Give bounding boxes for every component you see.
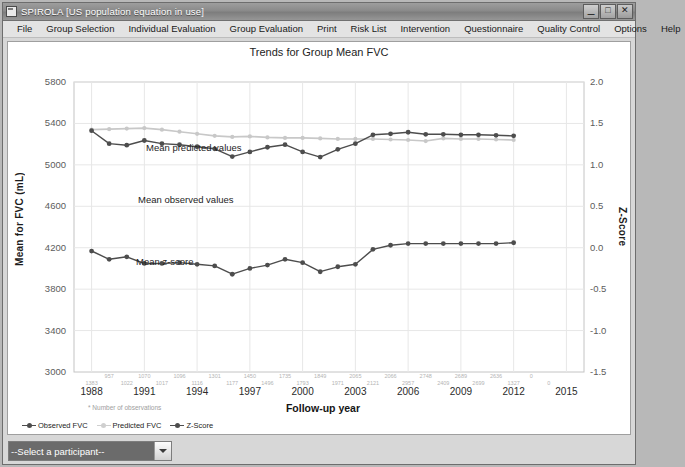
legend-label-observed-fvc: Observed FVC — [38, 421, 88, 430]
x-tick-1994: 1994 — [177, 386, 217, 397]
x-tick-2015: 2015 — [546, 386, 586, 397]
menu-item-questionnaire[interactable]: Questionnaire — [457, 21, 530, 37]
minimize-button[interactable]: _ — [583, 4, 599, 19]
y-tick-right-0.5: 0.5 — [590, 200, 620, 211]
observation-count-top-3: 1301 — [202, 373, 228, 379]
y-tick-right-2.0: 2.0 — [590, 76, 620, 87]
observation-count-bottom-13: 0 — [536, 380, 562, 386]
y-tick-left-5400: 5400 — [32, 117, 66, 128]
legend-marker-predicted-fvc — [97, 423, 111, 429]
plot-area — [8, 42, 631, 427]
observation-count-top-7: 2065 — [342, 373, 368, 379]
observation-count-bottom-11: 2699 — [465, 380, 491, 386]
y-axis-label-right: Z-Score — [617, 207, 628, 246]
bottom-bar: --Select a participant-- — [7, 435, 631, 464]
close-button[interactable]: ✕ — [617, 4, 633, 19]
y-tick-right--0.5: -0.5 — [590, 283, 620, 294]
application-window: SPIROLA [US population equation in use] … — [2, 2, 636, 465]
y-tick-right-0.0: 0.0 — [590, 242, 620, 253]
observation-count-top-1: 1070 — [131, 373, 157, 379]
y-tick-right--1.0: -1.0 — [590, 325, 620, 336]
observation-count-bottom-8: 2121 — [360, 380, 386, 386]
menu-item-options[interactable]: Options — [607, 21, 654, 37]
observation-count-top-4: 1450 — [237, 373, 263, 379]
observation-count-bottom-12: 1327 — [501, 380, 527, 386]
menu-item-group-selection[interactable]: Group Selection — [39, 21, 121, 37]
y-tick-left-3400: 3400 — [32, 325, 66, 336]
chart-panel: Trends for Group Mean FVC Mean for FVC (… — [7, 41, 631, 435]
chart-legend: Observed FVC Predicted FVC Z-Score — [22, 421, 213, 430]
title-bar: SPIROLA [US population equation in use] … — [3, 3, 635, 21]
y-tick-left-3800: 3800 — [32, 283, 66, 294]
participant-select[interactable]: --Select a participant-- — [8, 441, 172, 461]
y-tick-right--1.5: -1.5 — [590, 366, 620, 377]
series-annotation-predicted-fvc: Mean predicted values — [146, 142, 242, 153]
y-tick-right-1.0: 1.0 — [590, 159, 620, 170]
y-tick-left-3000: 3000 — [32, 366, 66, 377]
y-tick-left-5800: 5800 — [32, 76, 66, 87]
maximize-button[interactable]: □ — [600, 4, 616, 19]
legend-label-predicted-fvc: Predicted FVC — [113, 421, 162, 430]
close-icon: ✕ — [618, 5, 632, 16]
menu-item-group-evaluation[interactable]: Group Evaluation — [223, 21, 310, 37]
y-tick-left-5000: 5000 — [32, 159, 66, 170]
menu-item-help[interactable]: Help — [654, 21, 685, 37]
maximize-icon: □ — [601, 5, 615, 16]
observation-count-bottom-5: 1496 — [254, 380, 280, 386]
x-tick-2000: 2000 — [283, 386, 323, 397]
window-controls: _ □ ✕ — [583, 4, 633, 19]
observation-count-bottom-9: 2957 — [395, 380, 421, 386]
observation-count-top-6: 1849 — [307, 373, 333, 379]
x-tick-1988: 1988 — [72, 386, 112, 397]
observation-count-bottom-3: 1116 — [184, 380, 210, 386]
observation-count-bottom-10: 2409 — [430, 380, 456, 386]
x-tick-2003: 2003 — [335, 386, 375, 397]
legend-marker-observed-fvc — [22, 423, 36, 429]
menu-item-quality-control[interactable]: Quality Control — [530, 21, 607, 37]
observation-count-bottom-6: 1793 — [290, 380, 316, 386]
menu-item-print[interactable]: Print — [310, 21, 344, 37]
legend-entry-predicted-fvc[interactable]: Predicted FVC — [97, 421, 162, 430]
x-tick-2006: 2006 — [388, 386, 428, 397]
x-tick-1991: 1991 — [124, 386, 164, 397]
x-tick-1997: 1997 — [230, 386, 270, 397]
chart-title: Trends for Group Mean FVC — [8, 46, 630, 58]
series-annotation-z-score: Mean z-score — [136, 256, 194, 267]
x-axis-label: Follow-up year — [263, 402, 383, 414]
chevron-down-icon[interactable] — [154, 442, 171, 460]
menu-item-risk-list[interactable]: Risk List — [344, 21, 394, 37]
menu-item-individual-evaluation[interactable]: Individual Evaluation — [121, 21, 222, 37]
legend-entry-z-score[interactable]: Z-Score — [170, 421, 213, 430]
observations-note: * Number of observations — [88, 404, 161, 411]
y-tick-right-1.5: 1.5 — [590, 117, 620, 128]
x-tick-2009: 2009 — [441, 386, 481, 397]
series-annotation-observed-fvc: Mean observed values — [138, 194, 234, 205]
observation-count-top-2: 1096 — [167, 373, 193, 379]
legend-marker-z-score — [170, 423, 184, 429]
menu-item-intervention[interactable]: Intervention — [393, 21, 457, 37]
client-area: Trends for Group Mean FVC Mean for FVC (… — [3, 38, 635, 464]
legend-label-z-score: Z-Score — [186, 421, 213, 430]
minimize-icon: _ — [584, 3, 598, 14]
observation-count-top-0: 957 — [96, 373, 122, 379]
menu-item-file[interactable]: File — [10, 21, 39, 37]
observation-count-bottom-4: 1177 — [219, 380, 245, 386]
y-tick-left-4600: 4600 — [32, 200, 66, 211]
observation-count-top-8: 2066 — [378, 373, 404, 379]
observation-count-top-11: 2636 — [483, 373, 509, 379]
legend-entry-observed-fvc[interactable]: Observed FVC — [22, 421, 88, 430]
observation-count-bottom-2: 1017 — [149, 380, 175, 386]
y-axis-label-left: Mean for FVC (mL) — [14, 172, 25, 266]
x-tick-2012: 2012 — [494, 386, 534, 397]
app-icon — [6, 6, 17, 17]
observation-count-top-5: 1735 — [272, 373, 298, 379]
participant-select-value: --Select a participant-- — [9, 442, 154, 460]
observation-count-bottom-1: 1022 — [114, 380, 140, 386]
window-title: SPIROLA [US population equation in use] — [21, 6, 583, 17]
observation-count-top-10: 2689 — [448, 373, 474, 379]
menu-bar: File Group Selection Individual Evaluati… — [3, 21, 635, 38]
observation-count-top-9: 2748 — [413, 373, 439, 379]
y-tick-left-4200: 4200 — [32, 242, 66, 253]
observation-count-bottom-0: 1383 — [79, 380, 105, 386]
observation-count-bottom-7: 1971 — [325, 380, 351, 386]
